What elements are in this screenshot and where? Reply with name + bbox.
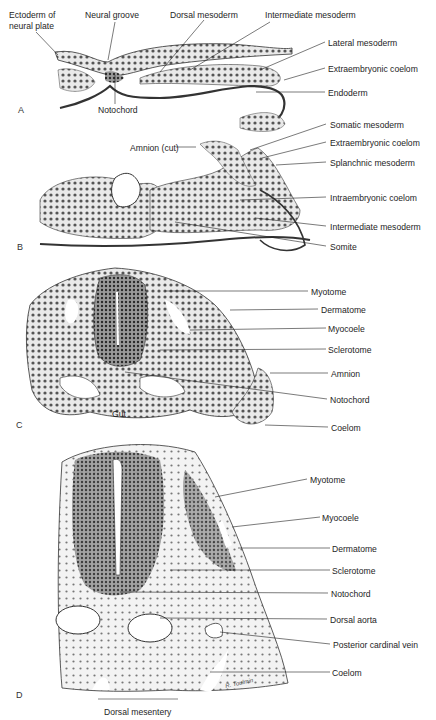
label-sclerotome: Sclerotome [328,345,371,355]
label-amnion-cut: Amnion (cut) [130,143,179,153]
label-dorsal-mesentery: Dorsal mesentery [104,707,171,717]
label-coelom: Coelom [332,668,362,678]
panel-letter-b: B [17,242,23,252]
label-amnion: Amnion [331,369,360,379]
label-myocoele: Myocoele [322,513,359,523]
label-dorsal-aorta: Dorsal aorta [330,615,377,625]
embryo-cross-section-figure: Ectoderm ofneural plateNeural grooveDors… [0,0,436,720]
label-somite: Somite [330,242,357,252]
label-notochord: Notochord [98,105,138,115]
label-endoderm: Endoderm [328,88,368,98]
label-ectoderm-of: Ectoderm of [9,10,55,20]
label-coelom: Coelom [331,423,361,433]
label-intraembryonic-coelom: Intraembryonic coelom [330,193,417,203]
label-sclerotome: Sclerotome [332,566,375,576]
panel-b-drawing [40,141,310,250]
label-gut: Gut [112,409,126,419]
label-notochord: Notochord [330,395,370,405]
label-posterior-cardinal-vein: Posterior cardinal vein [333,640,418,650]
label-myotome: Myotome [311,287,346,297]
label-dermatome: Dermatome [332,544,377,554]
label-lateral-mesoderm: Lateral mesoderm [328,38,397,48]
label-splanchnic-mesoderm: Splanchnic mesoderm [330,158,415,168]
label-myotome: Myotome [310,475,345,485]
label-neural-plate: neural plate [9,21,54,31]
label-notochord: Notochord [331,589,371,599]
label-somatic-mesoderm: Somatic mesoderm [330,120,404,130]
label-myocoele: Myocoele [328,324,365,334]
panel-c-drawing [26,268,273,424]
label-neural-groove: Neural groove [85,10,139,20]
illustration [0,0,436,720]
label-intermediate-mesoderm: Intermediate mesoderm [265,10,356,20]
label-dermatome: Dermatome [321,305,366,315]
panel-a-drawing [55,44,292,132]
label-dorsal-mesoderm: Dorsal mesoderm [170,10,238,20]
label-extraembryonic-coelom: Extraembryonic coelom [330,138,420,148]
panel-letter-d: D [16,690,23,700]
panel-letter-a: A [18,105,24,115]
label-extraembryonic-coelom: Extraembryonic coelom [328,64,418,74]
panel-d-drawing [56,445,288,699]
label-intermediate-mesoderm: Intermediate mesoderm [330,222,421,232]
panel-letter-c: C [16,420,23,430]
